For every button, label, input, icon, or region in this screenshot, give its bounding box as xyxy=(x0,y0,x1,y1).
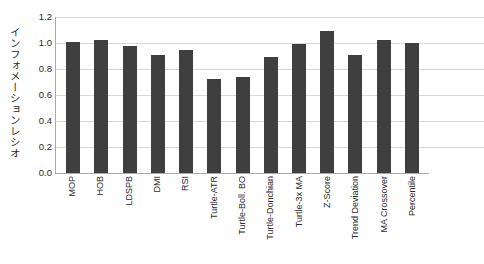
bar[interactable] xyxy=(405,43,419,173)
x-axis-tick-labels: MOPHOBLDSPBDMIRSITurtle-ATRTurtle-Boll. … xyxy=(55,176,429,262)
x-label-slot: Trend Deviation xyxy=(341,176,369,262)
y-axis-tick-labels: 0.00.20.40.60.81.01.2 xyxy=(24,17,52,173)
bar-slot xyxy=(87,17,115,173)
bar-slot xyxy=(285,17,313,173)
plot-area xyxy=(55,17,429,174)
bar[interactable] xyxy=(123,46,137,173)
y-tick-label: 0.4 xyxy=(24,116,52,126)
x-tick-label: Z-Score xyxy=(322,176,331,208)
x-tick-label: RSI xyxy=(181,176,190,191)
bar-slot xyxy=(200,17,228,173)
bar[interactable] xyxy=(292,44,306,173)
x-tick-label: Trend Deviation xyxy=(351,176,360,239)
bar[interactable] xyxy=(264,57,278,173)
x-label-slot: RSI xyxy=(171,176,199,262)
y-tick-label: 0.8 xyxy=(24,64,52,74)
x-tick-label: HOB xyxy=(96,176,105,196)
bar-slot xyxy=(144,17,172,173)
bar-slot xyxy=(341,17,369,173)
bar[interactable] xyxy=(377,40,391,173)
x-tick-label: Turtle-ATR xyxy=(209,176,218,219)
x-label-slot: Turtle-3x MA xyxy=(285,176,313,262)
x-label-slot: LDSPB xyxy=(115,176,143,262)
x-tick-label: Turtle-Donchian xyxy=(266,176,275,240)
x-label-slot: HOB xyxy=(86,176,114,262)
x-label-slot: MOP xyxy=(58,176,86,262)
x-tick-label: Turtle-3x MA xyxy=(294,176,303,227)
bar-slot xyxy=(228,17,256,173)
bar-slot xyxy=(59,17,87,173)
x-label-slot: Turtle-Boll. BO xyxy=(228,176,256,262)
bar[interactable] xyxy=(151,55,165,173)
y-tick-label: 1.2 xyxy=(24,12,52,22)
y-tick-label: 0.2 xyxy=(24,142,52,152)
y-tick-label: 0.0 xyxy=(24,168,52,178)
y-axis-title: インフォメーションレシオ xyxy=(4,18,24,168)
x-tick-label: MOP xyxy=(68,176,77,197)
x-label-slot: DMI xyxy=(143,176,171,262)
bar[interactable] xyxy=(320,31,334,173)
y-tick-label: 1.0 xyxy=(24,38,52,48)
bar-slot xyxy=(398,17,426,173)
x-label-slot: Turtle-Donchian xyxy=(256,176,284,262)
bar[interactable] xyxy=(94,40,108,173)
bar[interactable] xyxy=(236,77,250,173)
x-label-slot: MA Crossover xyxy=(369,176,397,262)
x-tick-label: Percentile xyxy=(407,176,416,216)
x-label-slot: Z-Score xyxy=(313,176,341,262)
x-tick-label: Turtle-Boll. BO xyxy=(238,176,247,235)
x-tick-label: DMI xyxy=(153,176,162,193)
bar[interactable] xyxy=(207,79,221,173)
x-label-slot: Turtle-ATR xyxy=(200,176,228,262)
bar[interactable] xyxy=(66,42,80,173)
x-tick-label: LDSPB xyxy=(124,176,133,206)
bar-slot xyxy=(257,17,285,173)
x-label-slot: Percentile xyxy=(398,176,426,262)
bar[interactable] xyxy=(179,50,193,174)
bar[interactable] xyxy=(348,55,362,173)
y-tick-label: 0.6 xyxy=(24,90,52,100)
bar-slot xyxy=(313,17,341,173)
bar-slot xyxy=(370,17,398,173)
bar-slot xyxy=(115,17,143,173)
bar-slot xyxy=(172,17,200,173)
x-tick-label: MA Crossover xyxy=(379,176,388,233)
bars-layer xyxy=(56,17,429,173)
